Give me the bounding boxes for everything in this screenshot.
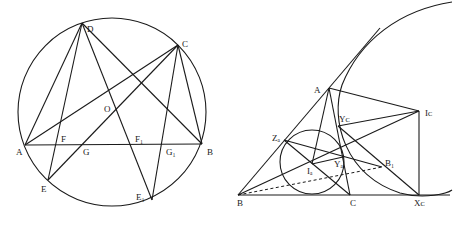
label-O: O [104, 104, 111, 114]
label-Yc: Yᴄ [339, 114, 350, 124]
label-B: B [237, 198, 243, 208]
label-G1: G₁ [166, 147, 176, 157]
segment-AIc [329, 88, 419, 111]
label-G: G [83, 147, 90, 157]
label-C: C [182, 39, 188, 49]
label-F1: F₁ [135, 134, 143, 144]
label-Ic: Iᴄ [425, 108, 432, 118]
label-Ya: Yₐ [334, 159, 343, 169]
label-Ia: Iₐ [307, 166, 313, 176]
excircle-arc [338, 2, 452, 196]
label-E1: E₁ [136, 192, 145, 202]
segment-DE [48, 23, 82, 180]
label-C: C [350, 198, 356, 208]
segment-AB [25, 144, 202, 145]
segment-AIa [312, 88, 329, 164]
segment-DE1 [82, 23, 152, 200]
geometry-figures: D C O A F G F₁ G₁ B E E₁ A Iᴄ Yᴄ Zₐ Iₐ [0, 0, 470, 229]
label-B1: B₁ [385, 158, 394, 168]
segment-IcYc [338, 111, 419, 126]
right-figure: A Iᴄ Yᴄ Zₐ Iₐ Yₐ B₁ B C Xᴄ [237, 2, 452, 208]
label-Za: Zₐ [272, 133, 280, 143]
label-Xc: Xᴄ [414, 198, 425, 208]
segment-ZaB1 [284, 140, 382, 167]
segment-YcXc [338, 126, 419, 195]
label-B: B [207, 147, 213, 157]
left-figure: D C O A F G F₁ G₁ B E E₁ [16, 18, 213, 206]
label-D: D [87, 24, 94, 34]
label-F: F [61, 134, 66, 144]
label-A: A [314, 85, 321, 95]
label-A: A [16, 147, 23, 157]
segment-IcB [238, 111, 419, 195]
label-E: E [41, 184, 47, 194]
